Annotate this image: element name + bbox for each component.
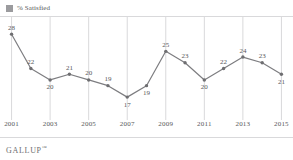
x-axis-labels: 20012003200520072009201120132015 [0,120,293,136]
data-point-2005 [87,78,90,81]
plot-area: 282220212019171925232022242321 [0,17,293,120]
gallup-trademark: ™ [42,145,48,150]
x-tick-2009: 2009 [158,120,173,129]
x-tick-2015: 2015 [274,120,289,129]
data-label-2010: 23 [182,52,190,60]
legend-label-satisfied: % Satisfied [17,4,50,12]
data-point-2004 [68,73,71,76]
data-label-2015: 21 [278,78,286,86]
data-label-2012: 22 [220,58,228,66]
x-tick-2007: 2007 [120,120,135,129]
data-label-2005: 20 [85,69,93,77]
data-point-2010 [183,61,186,64]
data-point-2014 [260,61,263,64]
x-tick-2003: 2003 [43,120,58,129]
data-point-2001 [10,32,13,35]
gallup-line-chart: % Satisfied 2822202120191719252320222423… [0,0,293,160]
gallup-logo-text: GALLUP [6,146,42,155]
gridlines [12,17,282,120]
data-point-2006 [106,84,109,87]
data-point-2015 [280,73,283,76]
data-label-2008: 19 [143,89,151,97]
data-point-2003 [48,78,51,81]
data-point-2002 [29,67,32,70]
x-tick-2001: 2001 [4,120,19,129]
x-tick-2005: 2005 [81,120,96,129]
data-point-2013 [241,55,244,58]
plot-svg: 282220212019171925232022242321 [0,17,293,120]
data-label-2007: 17 [124,101,132,109]
data-label-2004: 21 [66,64,74,72]
chart-legend: % Satisfied [6,3,50,13]
data-point-2012 [222,67,225,70]
legend-swatch-satisfied [6,5,13,12]
data-label-2001: 28 [8,24,16,32]
bottom-divider [0,137,293,138]
x-tick-2013: 2013 [235,120,250,129]
gallup-logo: GALLUP™ [6,143,47,156]
data-label-2014: 23 [259,52,267,60]
data-point-2009 [164,50,167,53]
data-point-2011 [203,78,206,81]
data-label-2002: 22 [27,58,35,66]
x-tick-2011: 2011 [197,120,212,129]
data-label-2009: 25 [162,41,170,49]
data-point-2007 [126,95,129,98]
data-label-2011: 20 [201,83,209,91]
data-point-2008 [145,84,148,87]
data-label-2006: 19 [104,75,112,83]
data-label-2013: 24 [239,47,247,55]
data-label-2003: 20 [47,83,55,91]
